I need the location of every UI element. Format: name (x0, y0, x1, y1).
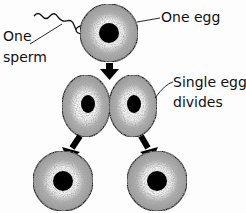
twin-cell-right (127, 151, 187, 211)
one-sperm-label-line1: One (3, 28, 32, 45)
divides-leader-line (155, 82, 173, 98)
egg-leader-line (137, 18, 160, 22)
diagram-canvas: One egg One sperm Single egg divides (0, 0, 246, 213)
single-egg-label-line1: Single egg (173, 74, 246, 91)
nucleus-icon (81, 95, 95, 113)
arrow-down-icon (100, 63, 119, 80)
one-egg-label: One egg (161, 9, 220, 26)
sperm-leader-line (30, 24, 62, 44)
one-sperm-label-line2: sperm (3, 49, 47, 66)
twin-cell-left (33, 151, 93, 211)
egg-cell (80, 4, 138, 62)
single-egg-label-line2: divides (173, 94, 223, 111)
nucleus-icon (127, 95, 141, 113)
nucleus-icon (147, 171, 167, 191)
dividing-cell-left (62, 75, 110, 137)
dividing-cell-right (109, 75, 157, 137)
egg-nucleus-icon (99, 23, 119, 43)
nucleus-icon (53, 171, 73, 191)
